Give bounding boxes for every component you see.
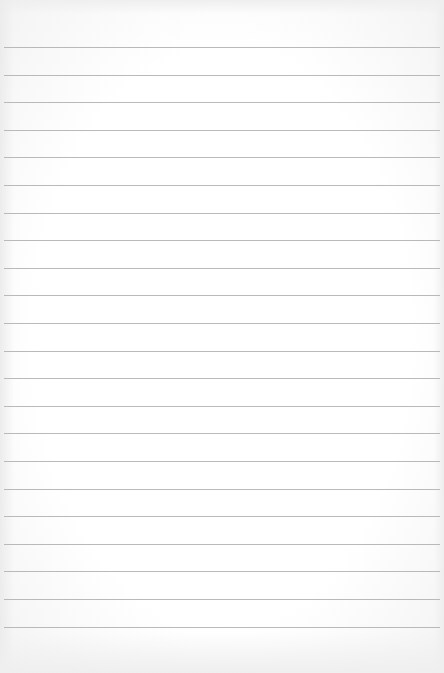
ruled-line [4,47,440,48]
ruled-line [4,599,440,600]
ruled-line [4,213,440,214]
ruled-line [4,406,440,407]
ruled-line [4,240,440,241]
ruled-line [4,378,440,379]
ruled-line [4,75,440,76]
ruled-line [4,130,440,131]
paper-edge-bottom [0,633,444,673]
ruled-line [4,351,440,352]
ruled-line [4,268,440,269]
ruled-line [4,433,440,434]
ruled-line [4,489,440,490]
ruled-line [4,544,440,545]
ruled-line [4,157,440,158]
lined-paper [0,0,444,673]
ruled-line [4,295,440,296]
ruled-line [4,323,440,324]
paper-edge-left [0,0,14,673]
paper-edge-top [0,0,444,14]
ruled-line [4,185,440,186]
ruled-line [4,627,440,628]
ruled-line [4,571,440,572]
ruled-line [4,461,440,462]
paper-edge-right [434,0,444,673]
ruled-line [4,102,440,103]
ruled-line [4,516,440,517]
